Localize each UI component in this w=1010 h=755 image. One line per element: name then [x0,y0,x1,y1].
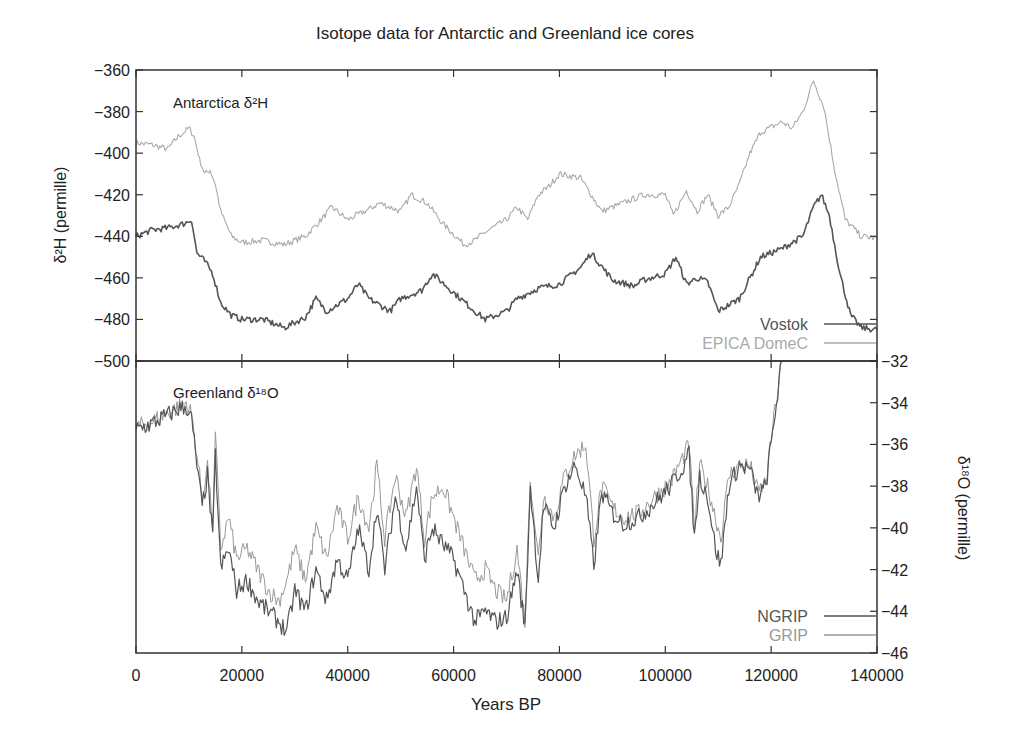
y-tick-label: −32 [881,353,908,370]
ice-core-isotope-chart: −360−380−400−420−440−460−480−500−32−34−3… [0,0,1010,755]
y-tick-label: −420 [94,187,130,204]
y-tick-label: −46 [881,645,908,662]
y-tick-label: −480 [94,311,130,328]
y-tick-label: −380 [94,104,130,121]
x-tick-label: 100000 [639,667,692,684]
series-ngrip-line [136,361,782,635]
x-tick-label: 60000 [431,667,476,684]
y-tick-label: −42 [881,562,908,579]
x-tick-label: 140000 [850,667,903,684]
series-vostok-line [136,195,877,331]
y-tick-label: −38 [881,478,908,495]
x-tick-label: 80000 [537,667,582,684]
antarctica-panel-label: Antarctica δ²H [173,94,268,111]
y-tick-label: −440 [94,228,130,245]
legends: VostokEPICA DomeCNGRIPGRIP [702,316,876,644]
y-tick-label: −34 [881,395,908,412]
y-tick-label: −460 [94,270,130,287]
x-tick-label: 20000 [220,667,265,684]
x-axis-label: Years BP [471,695,541,714]
y-tick-label: −40 [881,520,908,537]
y-tick-label: −44 [881,603,908,620]
legend-label-epica-domec: EPICA DomeC [702,335,808,352]
greenland-panel-label: Greenland δ¹⁸O [173,384,279,401]
y-tick-label: −360 [94,62,130,79]
y-tick-label: −36 [881,436,908,453]
top-y-axis-label: δ²H (permille) [52,167,69,264]
x-tick-label: 120000 [744,667,797,684]
greenland-panel [136,361,782,635]
y-tick-label: −500 [94,353,130,370]
antarctica-panel [136,81,877,332]
legend-label-grip: GRIP [769,627,808,644]
x-tick-label: 0 [132,667,141,684]
y-tick-label: −400 [94,145,130,162]
legend-label-ngrip: NGRIP [757,608,808,625]
legend-label-vostok: Vostok [760,316,809,333]
x-tick-label: 40000 [325,667,370,684]
bottom-y-axis-label: δ¹⁸O (permille) [955,456,972,561]
